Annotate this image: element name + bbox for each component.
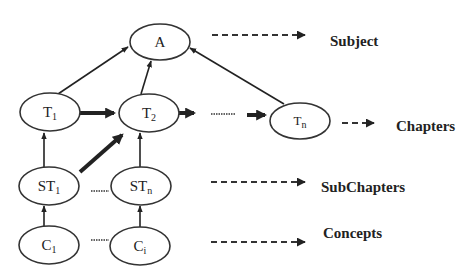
- edge-tn-to-a: [190, 48, 284, 104]
- node-t2: T2: [119, 94, 179, 132]
- node-c1: C1: [19, 226, 79, 264]
- level-label-chapters: Chapters: [396, 118, 455, 134]
- level-label-subject: Subject: [330, 33, 378, 49]
- node-tn: Tn: [270, 103, 330, 139]
- level-label-subchapters: SubChapters: [321, 179, 405, 195]
- node-st1: ST1: [19, 167, 79, 205]
- level-label-concepts: Concepts: [323, 225, 382, 241]
- node-a: A: [130, 24, 190, 60]
- node-t1: T1: [20, 93, 80, 131]
- concept-hierarchy-diagram: A T1 T2 Tn ST1 STn C1: [0, 0, 474, 278]
- node-ci: Ci: [110, 227, 170, 265]
- edge-t2-to-a: [141, 61, 151, 94]
- node-a-label: A: [155, 34, 166, 50]
- edge-t1-to-a: [58, 47, 128, 94]
- node-stn: STn: [111, 167, 171, 205]
- edge-st1-to-t2: [80, 135, 122, 172]
